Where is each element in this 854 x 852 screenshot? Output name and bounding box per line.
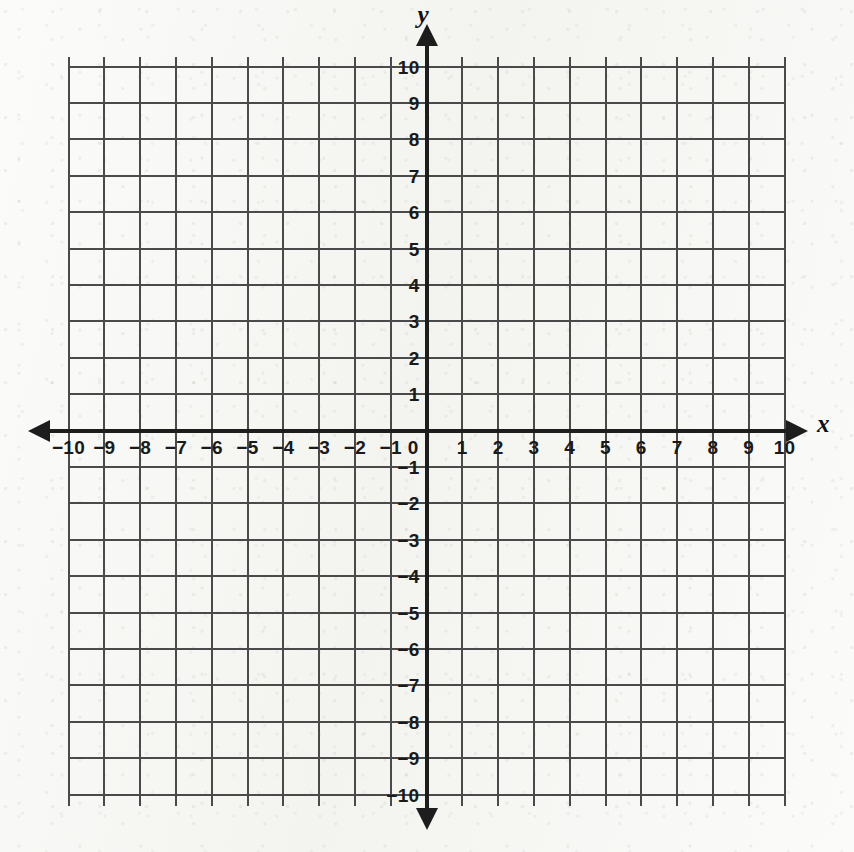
y-tick-label: −9 xyxy=(397,749,419,768)
y-tick-label: −4 xyxy=(397,567,419,586)
x-tick-label: −5 xyxy=(236,438,258,457)
y-tick-label: −1 xyxy=(397,457,419,476)
y-tick-label: 2 xyxy=(409,348,420,367)
x-tick-label: 9 xyxy=(743,438,754,457)
y-tick-label: −7 xyxy=(397,676,419,695)
x-tick-label: 6 xyxy=(636,438,647,457)
y-tick-label: 1 xyxy=(409,385,420,404)
y-tick-label: 4 xyxy=(409,275,420,294)
x-tick-label: −10 xyxy=(52,438,85,457)
coordinate-plane: −10−9−8−7−6−5−4−3−2−1012345678910−10−9−8… xyxy=(0,0,854,852)
x-tick-label: 1 xyxy=(457,438,468,457)
coordinate-grid-page: −10−9−8−7−6−5−4−3−2−1012345678910−10−9−8… xyxy=(0,0,854,852)
x-tick-label: 4 xyxy=(564,438,575,457)
y-tick-label: −3 xyxy=(397,530,419,549)
y-tick-label: 10 xyxy=(398,57,420,76)
x-tick-label: 8 xyxy=(707,438,718,457)
y-tick-label: 9 xyxy=(409,93,420,112)
x-tick-label: 10 xyxy=(774,438,796,457)
x-tick-label: −6 xyxy=(201,438,223,457)
y-tick-label: −5 xyxy=(397,603,419,622)
y-tick-label: 6 xyxy=(409,203,420,222)
x-tick-label: −4 xyxy=(272,438,294,457)
origin-tick-label: 0 xyxy=(408,438,419,457)
y-tick-label: −2 xyxy=(397,494,419,513)
y-axis-label: y xyxy=(418,2,429,27)
x-tick-label: −7 xyxy=(165,438,187,457)
x-tick-label: −3 xyxy=(308,438,330,457)
y-tick-label: 8 xyxy=(409,130,420,149)
y-tick-label: −6 xyxy=(397,639,419,658)
x-tick-label: −8 xyxy=(129,438,151,457)
y-tick-label: 5 xyxy=(409,239,420,258)
y-tick-label: 3 xyxy=(409,312,420,331)
x-tick-label: 5 xyxy=(600,438,611,457)
y-tick-label: −8 xyxy=(397,712,419,731)
x-axis-arrow-left xyxy=(28,420,50,442)
x-axis-line xyxy=(42,429,795,433)
y-axis-arrow-down xyxy=(416,808,438,830)
y-axis-line xyxy=(425,36,429,820)
x-tick-label: −2 xyxy=(344,438,366,457)
x-tick-label: 3 xyxy=(528,438,539,457)
x-tick-label: 7 xyxy=(672,438,683,457)
x-tick-label: −1 xyxy=(380,438,402,457)
y-tick-label: −10 xyxy=(386,785,419,804)
x-tick-label: −9 xyxy=(93,438,115,457)
x-axis-label: x xyxy=(817,411,830,436)
x-tick-label: 2 xyxy=(493,438,504,457)
y-tick-label: 7 xyxy=(409,166,420,185)
